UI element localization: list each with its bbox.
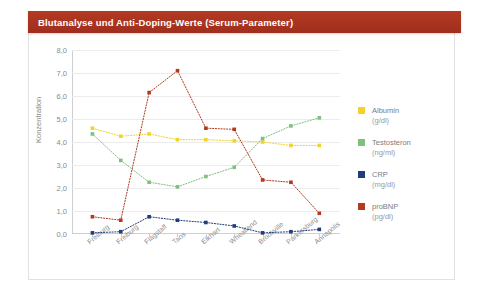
data-point <box>232 139 236 143</box>
legend-label-wrap: Testosteron(ng/ml) <box>372 138 411 158</box>
data-point <box>318 212 322 216</box>
data-point <box>289 144 293 148</box>
data-point <box>204 175 208 179</box>
legend-label: CRP <box>372 170 395 180</box>
legend-swatch-crp-icon <box>358 171 365 178</box>
data-point <box>204 126 208 130</box>
y-tick-label: 8,0 <box>57 46 67 55</box>
data-point <box>147 91 151 95</box>
data-point <box>204 138 208 142</box>
legend-unit: (mg/dl) <box>372 180 395 190</box>
legend-item-crp[interactable]: CRP(mg/dl) <box>358 170 453 190</box>
legend-label-wrap: Albumin(g/dl) <box>372 106 399 126</box>
y-tick-label: 4,0 <box>57 138 67 147</box>
data-point <box>91 132 95 136</box>
data-point <box>119 159 123 163</box>
legend-item-albumin[interactable]: Albumin(g/dl) <box>358 106 453 126</box>
chart-page: Blutanalyse und Anti-Doping-Werte (Serum… <box>0 0 478 297</box>
data-point <box>119 230 123 234</box>
legend-swatch-albumin-icon <box>358 107 365 114</box>
page-title: Blutanalyse und Anti-Doping-Werte (Serum… <box>28 17 293 28</box>
series-line <box>92 128 319 145</box>
title-bar: Blutanalyse und Anti-Doping-Werte (Serum… <box>28 11 461 33</box>
legend-label-wrap: CRP(mg/dl) <box>372 170 395 190</box>
data-point <box>147 180 151 184</box>
legend-item-testosteron[interactable]: Testosteron(ng/ml) <box>358 138 453 158</box>
legend-swatch-testosteron-icon <box>358 139 365 146</box>
legend-label: Testosteron <box>372 138 411 148</box>
data-point <box>261 231 265 235</box>
legend-unit: (pg/dl) <box>372 212 398 222</box>
legend-swatch-probnp-icon <box>358 203 365 210</box>
legend-label: Albumin <box>372 106 399 116</box>
y-tick-label: 7,0 <box>57 69 67 78</box>
data-point <box>261 137 265 141</box>
data-point <box>176 138 180 142</box>
data-point <box>147 132 151 136</box>
y-tick-label: 2,0 <box>57 184 67 193</box>
data-point <box>119 134 123 138</box>
legend: Albumin(g/dl)Testosteron(ng/ml)CRP(mg/dl… <box>358 106 453 234</box>
data-point <box>91 231 95 235</box>
data-point <box>318 144 322 148</box>
data-point <box>119 218 123 222</box>
data-point <box>261 178 265 182</box>
data-point <box>232 166 236 170</box>
series-line <box>92 217 319 233</box>
data-point <box>289 124 293 128</box>
legend-label: proBNP <box>372 202 398 212</box>
data-point <box>289 180 293 184</box>
data-point <box>176 218 180 222</box>
data-point <box>91 126 95 130</box>
y-axis-label: Konzentration <box>34 97 43 143</box>
data-point <box>176 69 180 73</box>
data-point <box>318 228 322 232</box>
y-tick-label: 5,0 <box>57 115 67 124</box>
plot-area: 0,01,02,03,04,05,06,07,08,0 FreiburgFrei… <box>72 50 340 234</box>
data-point <box>91 215 95 219</box>
series-crp <box>91 215 321 235</box>
y-tick-label: 0,0 <box>57 230 67 239</box>
data-point <box>147 215 151 219</box>
data-point <box>318 116 322 120</box>
data-point <box>204 221 208 225</box>
chart-area: Konzentration 0,01,02,03,04,05,06,07,08,… <box>28 33 455 280</box>
legend-label-wrap: proBNP(pg/dl) <box>372 202 398 222</box>
series-probnp <box>91 69 321 222</box>
legend-unit: (ng/ml) <box>372 148 411 158</box>
data-point <box>289 230 293 234</box>
data-point <box>232 224 236 228</box>
y-tick-label: 6,0 <box>57 92 67 101</box>
y-tick-label: 3,0 <box>57 161 67 170</box>
y-tick-label: 1,0 <box>57 207 67 216</box>
data-point <box>232 128 236 132</box>
data-point <box>176 185 180 189</box>
series-layer <box>72 50 340 234</box>
series-line <box>92 71 319 221</box>
legend-item-probnp[interactable]: proBNP(pg/dl) <box>358 202 453 222</box>
data-point <box>261 140 265 144</box>
legend-unit: (g/dl) <box>372 116 399 126</box>
